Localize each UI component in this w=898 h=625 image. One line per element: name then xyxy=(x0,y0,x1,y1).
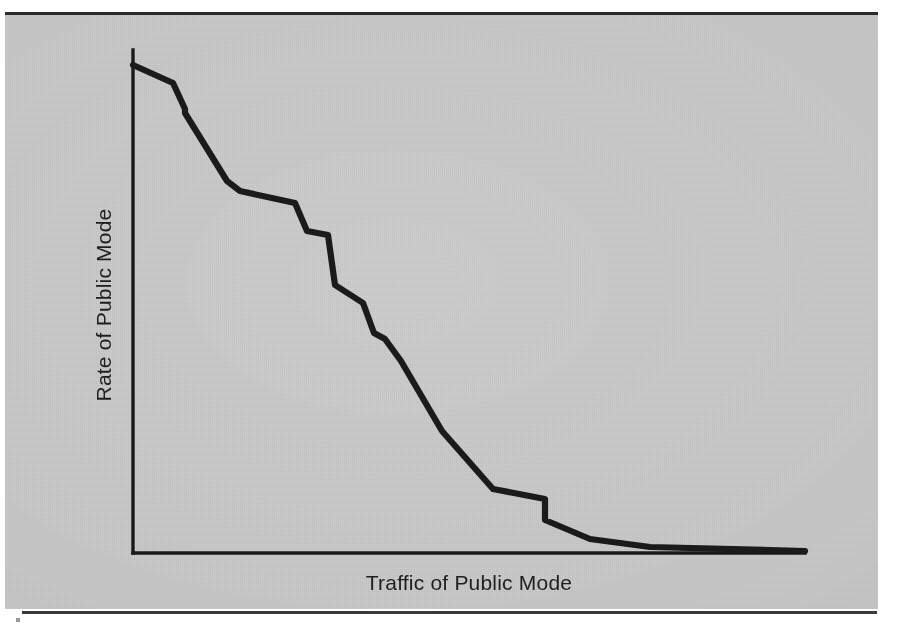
line-chart-plot: Traffic of Public Mode Rate of Public Mo… xyxy=(5,15,878,609)
y-axis-title: Rate of Public Mode xyxy=(92,209,115,402)
caption-divider-rule xyxy=(22,611,877,614)
figure-panel: Traffic of Public Mode Rate of Public Mo… xyxy=(5,12,878,609)
data-curve-public-mode xyxy=(133,65,805,551)
figure-root: Traffic of Public Mode Rate of Public Mo… xyxy=(0,0,898,625)
x-axis-title: Traffic of Public Mode xyxy=(366,571,572,594)
caption-divider-mark xyxy=(16,618,20,622)
